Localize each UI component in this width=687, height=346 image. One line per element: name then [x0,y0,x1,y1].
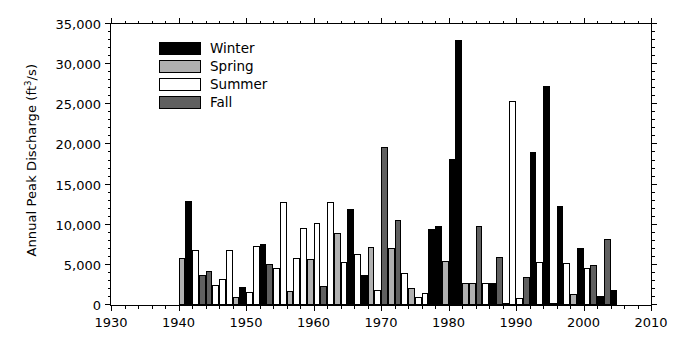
bar-1953-fall [266,264,273,305]
x-tick-1932 [125,305,126,309]
y-tick-label-0: 0 [93,298,101,313]
y-tick-right-25000 [651,103,657,104]
x-tick-top-1934 [138,21,139,25]
bar-2000-summer [584,268,591,305]
bar-1979-spring [442,261,449,305]
y-tick-3000 [108,280,112,281]
x-tick-1994 [543,305,544,309]
y-tick-15000 [105,184,111,185]
y-tick-right-15000 [651,184,657,185]
bar-1998-spring [570,294,577,305]
x-tick-top-1960 [314,18,315,24]
y-tick-26000 [108,95,112,96]
bar-1945-summer [212,285,219,305]
bar-1956-spring [287,291,294,305]
x-tick-2004 [611,305,612,309]
legend-label-summer: Summer [210,78,267,92]
x-tick-label-2010: 2010 [634,315,667,330]
x-tick-top-1974 [408,21,409,25]
y-tick-right-23000 [651,119,655,120]
y-tick-2000 [108,288,112,289]
y-tick-label-15000: 15,000 [56,177,102,192]
x-tick-1930 [111,305,112,311]
bar-1961-fall [320,286,327,305]
y-tick-right-16000 [651,176,655,177]
y-tick-23000 [108,119,112,120]
x-tick-top-1940 [179,18,180,24]
x-tick-top-1964 [341,21,342,25]
x-tick-top-1980 [449,18,450,24]
bar-1940-spring [179,258,186,305]
x-tick-1950 [246,305,247,311]
x-tick-top-2006 [624,21,625,25]
bar-1977-winter [428,229,435,305]
bar-1944-fall [206,271,213,305]
x-tick-1940 [179,305,180,311]
x-tick-label-1940: 1940 [162,315,195,330]
y-tick-1000 [108,296,112,297]
y-tick-7000 [108,248,112,249]
bar-1988-winter [503,303,510,305]
x-tick-top-2000 [584,18,585,24]
y-tick-8000 [108,240,112,241]
x-tick-top-1948 [233,21,234,25]
x-tick-1968 [368,305,369,309]
bar-1946-summer [219,279,226,305]
y-tick-right-24000 [651,111,655,112]
x-tick-label-1990: 1990 [499,315,532,330]
y-tick-20000 [105,143,111,144]
bar-1971-spring [388,248,395,305]
chart-figure: Annual Peak Discharge (ft3/s) 05,00010,0… [0,0,687,346]
y-tick-right-27000 [651,87,655,88]
bar-2002-winter [597,296,604,305]
x-tick-top-1968 [368,21,369,25]
bar-1997-summer [563,263,570,305]
y-tick-27000 [108,87,112,88]
y-tick-5000 [105,264,111,265]
x-tick-1996 [557,305,558,309]
y-tick-right-12000 [651,208,655,209]
legend-item-summer: Summer [159,78,267,92]
bar-1991-fall [523,277,530,305]
x-tick-1958 [300,305,301,309]
y-tick-right-7000 [651,248,655,249]
bar-1947-summer [226,250,233,305]
legend-swatch-winter [159,42,201,55]
x-tick-1976 [422,305,423,309]
x-tick-top-1954 [273,21,274,25]
legend-label-winter: Winter [210,42,255,56]
bar-1950-summer [246,292,253,305]
chart-legend: Winter Spring Summer Fall [159,42,267,110]
y-tick-right-9000 [651,232,655,233]
x-tick-1942 [192,305,193,309]
x-tick-1980 [449,305,450,311]
x-tick-top-1998 [570,21,571,25]
x-tick-top-1984 [476,21,477,25]
x-tick-1962 [327,305,328,309]
x-tick-top-2002 [597,21,598,25]
bar-1964-summer [341,262,348,305]
y-tick-right-18000 [651,160,655,161]
x-tick-top-2010 [651,18,652,24]
x-tick-top-2008 [638,21,639,25]
legend-swatch-spring [159,60,201,73]
x-tick-top-1996 [557,21,558,25]
x-tick-1984 [476,305,477,309]
bar-1965-winter [347,209,354,305]
y-tick-right-21000 [651,135,655,136]
x-tick-1982 [462,305,463,309]
y-tick-right-13000 [651,200,655,201]
bar-1975-summer [415,297,422,305]
y-tick-29000 [108,71,112,72]
y-tick-right-32000 [651,47,655,48]
bar-1994-winter [543,86,550,305]
x-tick-1944 [206,305,207,309]
x-tick-top-2004 [611,21,612,25]
x-tick-top-1990 [516,18,517,24]
x-tick-1990 [516,305,517,311]
x-tick-top-1992 [530,21,531,25]
y-tick-right-14000 [651,192,655,193]
bar-1973-summer [401,273,408,305]
y-tick-right-6000 [651,256,655,257]
bar-1943-fall [199,275,206,306]
